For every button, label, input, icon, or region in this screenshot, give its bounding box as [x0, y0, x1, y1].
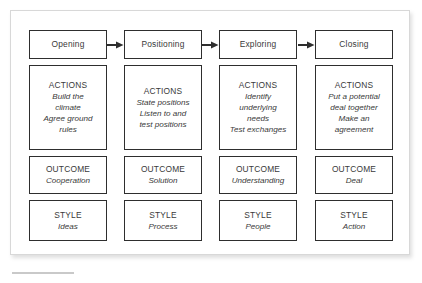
- outcome-value: Understanding: [232, 175, 285, 186]
- screenshot-canvas: Opening ACTIONS Build the climate Agree …: [0, 0, 422, 283]
- actions-line: Build the: [52, 91, 84, 102]
- phase-header-box[interactable]: Exploring: [219, 30, 297, 59]
- style-value: People: [245, 221, 270, 232]
- style-label: STYLE: [54, 210, 82, 221]
- outcome-value: Solution: [148, 175, 177, 186]
- phase-title: Exploring: [240, 39, 277, 50]
- phase-column-exploring: Exploring ACTIONS Identify underlying ne…: [219, 30, 297, 241]
- phase-header-box[interactable]: Positioning: [124, 30, 202, 59]
- actions-line: rules: [59, 124, 77, 135]
- actions-line: underlying: [239, 102, 276, 113]
- actions-box[interactable]: ACTIONS Identify underlying needs Test e…: [219, 65, 297, 150]
- actions-label: ACTIONS: [335, 80, 374, 91]
- phase-header-box[interactable]: Closing: [315, 30, 393, 59]
- outcome-label: OUTCOME: [46, 164, 90, 175]
- right-arrow-icon: [107, 41, 124, 49]
- outcome-value: Deal: [346, 175, 363, 186]
- phase-title: Closing: [339, 39, 368, 50]
- phase-header-box[interactable]: Opening: [29, 30, 107, 59]
- outcome-label: OUTCOME: [141, 164, 185, 175]
- outcome-box[interactable]: OUTCOME Understanding: [219, 156, 297, 194]
- style-value: Process: [148, 221, 177, 232]
- actions-lines: Identify underlying needs Test exchanges: [230, 91, 286, 135]
- actions-line: State positions: [136, 97, 189, 108]
- actions-box[interactable]: ACTIONS Put a potential deal together Ma…: [315, 65, 393, 150]
- phase-column-closing: Closing ACTIONS Put a potential deal tog…: [315, 30, 393, 241]
- style-box[interactable]: STYLE Ideas: [29, 200, 107, 241]
- actions-box[interactable]: ACTIONS Build the climate Agree ground r…: [29, 65, 107, 150]
- phase-column-opening: Opening ACTIONS Build the climate Agree …: [29, 30, 107, 241]
- actions-line: climate: [55, 102, 81, 113]
- caption-rule: [12, 272, 74, 274]
- phase-column-positioning: Positioning ACTIONS State positions List…: [124, 30, 202, 241]
- actions-line: deal together: [330, 102, 377, 113]
- actions-lines: State positions Listen to and test posit…: [136, 97, 189, 130]
- outcome-label: OUTCOME: [236, 164, 280, 175]
- actions-label: ACTIONS: [49, 80, 88, 91]
- phase-title: Opening: [51, 39, 84, 50]
- actions-line: Test exchanges: [230, 124, 286, 135]
- actions-lines: Put a potential deal together Make an ag…: [328, 91, 380, 135]
- style-label: STYLE: [244, 210, 272, 221]
- style-value: Ideas: [58, 221, 78, 232]
- style-label: STYLE: [340, 210, 368, 221]
- actions-line: Identify: [245, 91, 271, 102]
- figure-frame: Opening ACTIONS Build the climate Agree …: [10, 10, 410, 255]
- style-box[interactable]: STYLE People: [219, 200, 297, 241]
- actions-box[interactable]: ACTIONS State positions Listen to and te…: [124, 65, 202, 150]
- diagram-grid: Opening ACTIONS Build the climate Agree …: [29, 30, 393, 241]
- actions-line: needs: [247, 113, 269, 124]
- actions-label: ACTIONS: [239, 80, 278, 91]
- outcome-box[interactable]: OUTCOME Cooperation: [29, 156, 107, 194]
- right-arrow-icon: [298, 41, 315, 49]
- actions-line: agreement: [335, 124, 374, 135]
- outcome-box[interactable]: OUTCOME Deal: [315, 156, 393, 194]
- style-box[interactable]: STYLE Process: [124, 200, 202, 241]
- outcome-box[interactable]: OUTCOME Solution: [124, 156, 202, 194]
- actions-line: test positions: [139, 119, 186, 130]
- phase-title: Positioning: [141, 39, 184, 50]
- actions-line: Listen to and: [140, 108, 186, 119]
- right-arrow-icon: [202, 41, 219, 49]
- actions-label: ACTIONS: [144, 86, 183, 97]
- style-label: STYLE: [149, 210, 177, 221]
- actions-line: Agree ground: [43, 113, 92, 124]
- outcome-value: Cooperation: [46, 175, 90, 186]
- actions-line: Put a potential: [328, 91, 380, 102]
- style-box[interactable]: STYLE Action: [315, 200, 393, 241]
- style-value: Action: [343, 221, 366, 232]
- actions-lines: Build the climate Agree ground rules: [43, 91, 92, 135]
- actions-line: Make an: [338, 113, 369, 124]
- outcome-label: OUTCOME: [332, 164, 376, 175]
